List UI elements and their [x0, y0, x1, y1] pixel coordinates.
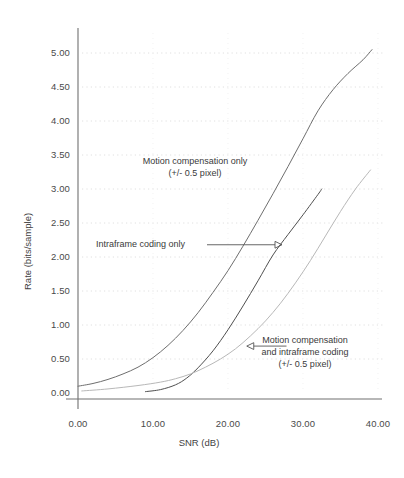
x-tick-label: 40.00 — [353, 418, 403, 429]
annotation-line-1: Motion compensation only — [143, 155, 248, 167]
x-axis-title: SNR (dB) — [179, 437, 220, 448]
plot-area — [0, 0, 404, 478]
y-tick-label: 3.50 — [30, 149, 70, 160]
y-tick-label: 4.50 — [30, 81, 70, 92]
x-tick-label: 20.00 — [203, 418, 253, 429]
y-tick-label: 0.50 — [30, 353, 70, 364]
y-axis-title: Rate (bits/sample) — [22, 213, 33, 290]
annotation-line-3: (+/- 0.5 pixel) — [261, 358, 348, 370]
y-tick-label: 2.50 — [30, 217, 70, 228]
annotation-line-1: Intraframe coding only — [96, 238, 185, 250]
y-tick-label: 0.00 — [30, 387, 70, 398]
y-tick-label: 3.00 — [30, 183, 70, 194]
y-tick-label: 4.00 — [30, 115, 70, 126]
x-tick-label: 0.00 — [53, 418, 103, 429]
y-tick-label: 2.00 — [30, 251, 70, 262]
annotation-line-2: (+/- 0.5 pixel) — [143, 167, 248, 179]
y-tick-label: 1.50 — [30, 285, 70, 296]
annotation-intraframe-coding-only: Intraframe coding only — [96, 238, 185, 250]
annotation-line-2: and intraframe coding — [261, 346, 348, 358]
annotation-motion-compensation-only: Motion compensation only (+/- 0.5 pixel) — [143, 155, 248, 179]
annotation-motion-compensation-and-intraframe-coding: Motion compensation and intraframe codin… — [261, 334, 348, 370]
y-tick-label: 5.00 — [30, 47, 70, 58]
x-tick-label: 10.00 — [128, 418, 178, 429]
arrow-intraframe-coding-only — [207, 241, 282, 248]
arrow-head — [247, 343, 254, 350]
x-tick-label: 30.00 — [278, 418, 328, 429]
y-tick-label: 1.00 — [30, 319, 70, 330]
rate-vs-snr-chart: 5.00 4.50 4.00 3.50 3.00 2.50 2.00 1.50 … — [0, 0, 404, 478]
annotation-line-1: Motion compensation — [261, 334, 348, 346]
